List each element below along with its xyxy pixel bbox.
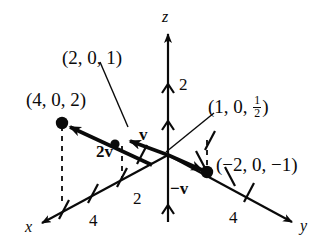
label-axis-x: x <box>25 219 32 235</box>
label-point-neg2-0-neg1: (−2, 0, −1) <box>216 155 298 174</box>
vector-line-v <box>130 141 168 155</box>
label-vector-v: v <box>139 126 148 143</box>
tick-label-y-4: 4 <box>229 209 238 226</box>
fraction-denominator: 2 <box>253 108 261 120</box>
vector-line-minus-v <box>168 155 202 170</box>
label-point-1-0-half-prefix: (1, 0, <box>208 96 252 117</box>
diagram-canvas <box>0 0 334 250</box>
label-point-1-0-half: (1, 0, 12) <box>208 96 269 122</box>
dot-point-4-0-2 <box>56 117 68 129</box>
label-vector-2v: 2v <box>96 143 113 160</box>
fraction-numerator: 1 <box>253 95 261 108</box>
leader-line-point-2-0-1 <box>100 62 128 127</box>
label-point-4-0-2: (4, 0, 2) <box>26 90 86 109</box>
vector-diagram-figure: (2, 0, 1) (4, 0, 2) (1, 0, 12) (−2, 0, −… <box>0 0 334 250</box>
tick-label-z-2: 2 <box>179 76 188 93</box>
label-point-1-0-half-suffix: ) <box>262 96 268 117</box>
dot-point-neg2-0-neg1 <box>201 166 213 178</box>
fraction-one-half: 12 <box>253 95 261 121</box>
tick-label-x-4: 4 <box>89 212 98 229</box>
tick-label-x-2: 2 <box>133 190 142 207</box>
label-axis-z: z <box>162 9 168 25</box>
label-point-2-0-1: (2, 0, 1) <box>62 48 122 67</box>
label-vector-minus-v: −v <box>170 180 188 197</box>
label-axis-y: y <box>300 218 307 234</box>
